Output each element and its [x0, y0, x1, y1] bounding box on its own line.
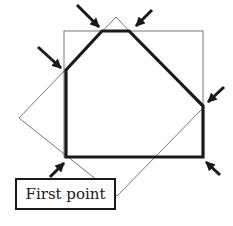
- vertex-arrow-top-left: [77, 5, 99, 27]
- first-point-label-text: First point: [26, 185, 106, 203]
- vertex-arrow-right-upper: [208, 87, 224, 102]
- vertex-arrow-left-upper: [38, 47, 61, 68]
- first-point-label: First point: [15, 178, 116, 210]
- vertex-arrow-top-right: [136, 10, 152, 26]
- vertex-arrow-bottom-right: [206, 162, 220, 175]
- rotated-square: [19, 17, 203, 196]
- first-point-arrow: [50, 163, 64, 177]
- intersection-polygon: [66, 31, 203, 157]
